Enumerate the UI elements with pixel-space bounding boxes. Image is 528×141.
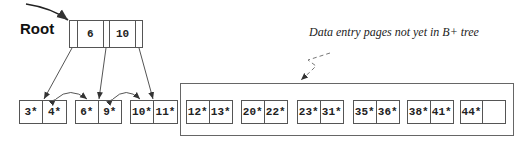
data-entry: 10* [131, 101, 154, 123]
sibling-link-2 [113, 93, 140, 100]
pointer-slot [136, 21, 142, 47]
unindexed-leaf-page: 23* 31* [297, 100, 344, 124]
sibling-link-1 [56, 93, 87, 100]
data-entry: 20* [242, 101, 265, 123]
data-entry: 3* [20, 101, 43, 123]
annotation-text: Data entry pages not yet in B+ tree [309, 25, 479, 40]
child-pointer-2 [99, 48, 106, 99]
annotation-dashed-arrow [301, 53, 330, 80]
unindexed-leaf-page: 44* [460, 100, 506, 124]
data-entry: 31* [321, 101, 344, 123]
data-entry: 35* [354, 101, 377, 123]
leaf-page: 3* 4* [19, 100, 67, 124]
unindexed-leaf-page: 20* 22* [241, 100, 288, 124]
data-entry: 41* [431, 101, 454, 123]
leaf-page: 10* 11* [130, 100, 178, 124]
root-label: Root [20, 20, 54, 37]
data-entry: 38* [408, 101, 431, 123]
root-node: 6 10 [69, 20, 143, 48]
root-key: 6 [78, 21, 104, 47]
unindexed-leaf-page: 35* 36* [353, 100, 400, 124]
data-entry: 36* [377, 101, 400, 123]
data-entry: 12* [187, 101, 210, 123]
data-entry: 6* [76, 101, 99, 123]
child-pointer-3 [139, 48, 153, 99]
empty-entry-slot [483, 101, 505, 123]
root-key: 10 [110, 21, 136, 47]
data-entry: 13* [210, 101, 233, 123]
unindexed-leaf-page: 12* 13* [186, 100, 233, 124]
data-entry: 9* [99, 101, 122, 123]
leaf-page: 6* 9* [75, 100, 122, 124]
pointer-slot [70, 21, 78, 47]
data-entry: 44* [461, 101, 483, 123]
unindexed-leaf-page: 38* 41* [407, 100, 454, 124]
data-entry: 11* [154, 101, 177, 123]
root-arrow-icon [26, 4, 68, 20]
child-pointer-1 [44, 48, 72, 99]
data-entry: 22* [265, 101, 288, 123]
data-entry: 23* [298, 101, 321, 123]
data-entry: 4* [43, 101, 66, 123]
